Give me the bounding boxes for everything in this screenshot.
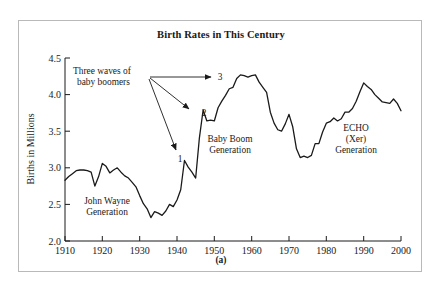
annotation-baby-boom-line1: Baby Boom [207, 134, 253, 144]
y-tick-label-3.0: 3.0 [49, 162, 62, 173]
figure-panel: Birth Rates in This Century 4.5 4.0 3.5 … [18, 20, 422, 272]
annotation-three-waves-line2: baby boomers [77, 77, 130, 87]
annotation-echo-line3: Generation [335, 145, 377, 155]
y-tick-label-4.0: 4.0 [49, 89, 62, 100]
wave-marker-1: 1 [178, 154, 183, 164]
annotation-john-wayne-line1: John Wayne [84, 196, 130, 206]
annotation-three-waves-line1: Three waves of [73, 66, 132, 76]
wave-marker-3: 3 [218, 72, 223, 82]
x-axis: 1910 1920 1930 1940 1950 1960 1970 1980 … [55, 236, 411, 256]
y-axis-title: Births in Millions [25, 113, 36, 184]
annotation-echo: ECHO (Xer) Generation [335, 123, 377, 155]
figure-caption: (a) [19, 255, 423, 265]
annotation-john-wayne: John Wayne Generation [84, 196, 130, 217]
annotation-three-waves: Three waves of baby boomers [73, 66, 132, 87]
y-axis-ticks [65, 58, 70, 241]
birth-rates-line-chart: 4.5 4.0 3.5 3.0 2.5 2.0 Births in Millio… [19, 21, 423, 273]
y-tick-label-4.5: 4.5 [49, 53, 62, 64]
wave-marker-2: 2 [202, 108, 207, 118]
y-tick-label-3.5: 3.5 [49, 126, 62, 137]
annotation-baby-boom-line2: Generation [209, 145, 251, 155]
y-tick-label-2.5: 2.5 [49, 199, 62, 210]
annotation-echo-line1: ECHO [343, 123, 369, 133]
annotation-john-wayne-line2: Generation [86, 207, 128, 217]
annotation-echo-line2: (Xer) [346, 134, 366, 145]
x-axis-ticks [65, 236, 401, 241]
annotation-baby-boom: Baby Boom Generation [207, 134, 253, 155]
y-axis: 4.5 4.0 3.5 3.0 2.5 2.0 Births in Millio… [25, 53, 70, 247]
